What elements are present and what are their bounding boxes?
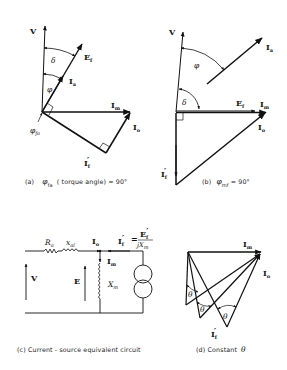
inductor-Xm xyxy=(99,263,101,299)
label-phi-fa: φfa xyxy=(30,126,40,137)
phasor-V xyxy=(42,26,45,112)
label-Im: Im xyxy=(107,256,117,267)
label-V: V xyxy=(168,27,176,37)
angle-phi-arc xyxy=(181,48,224,70)
label-Io: Io xyxy=(258,122,266,133)
caption-d: (d) Constantθ xyxy=(196,345,246,354)
eq-numerator: Ef′ xyxy=(140,225,149,240)
phi-fa-pointer xyxy=(38,113,42,122)
label-Ef: Ef xyxy=(236,98,245,109)
caption-a: (a)φfa( torque angle) = 90° xyxy=(25,177,127,188)
resistor-Ra xyxy=(44,249,58,253)
label-Ia: Ia xyxy=(69,76,77,87)
label-Ra: Ra xyxy=(44,238,54,248)
panel-b-phasor-diagram: V Ia φ δ Ef Im If′ Io (b)φmf= 90° xyxy=(161,27,274,188)
phasor-Io-2 xyxy=(200,254,260,318)
eq-lhs: If′ xyxy=(118,232,125,247)
phasor-diagram-figure: V Ef Ia δ φ Im Io If′ φfa (a)φfa( torque… xyxy=(0,0,287,370)
label-xal: xal xyxy=(66,238,75,248)
equation-If-prime: If′ = Ef′ jXm xyxy=(118,225,153,250)
label-delta: δ xyxy=(51,56,56,65)
label-theta-2: θ xyxy=(200,305,205,314)
label-Xm: Xm xyxy=(107,280,118,290)
label-Ia: Io xyxy=(92,236,100,247)
caption-b: (b)φmf= 90° xyxy=(202,177,250,188)
label-Ia: Ia xyxy=(266,42,274,53)
phasor-If-prime xyxy=(42,112,106,153)
angle-delta-arc xyxy=(44,48,75,56)
label-theta-1: θ xyxy=(188,290,193,299)
label-Ef: Ef xyxy=(84,52,93,63)
label-Io: Io xyxy=(263,268,271,279)
phasor-If-2 xyxy=(188,252,200,318)
eq-denominator: jXm xyxy=(135,241,149,250)
label-phi: φ xyxy=(194,61,200,70)
right-angle-marker xyxy=(47,103,53,115)
theta-arc-3 xyxy=(218,305,236,309)
label-Io: Io xyxy=(133,122,141,133)
panel-d-constant-theta: Im Io If′ θ θ θ (d) Constantθ xyxy=(186,239,271,354)
label-delta: δ xyxy=(182,98,187,107)
right-angle-marker xyxy=(176,113,183,120)
label-theta-3: θ xyxy=(223,312,228,321)
label-V: V xyxy=(30,273,38,283)
label-phi: φ xyxy=(47,85,53,94)
label-V: V xyxy=(29,26,37,36)
label-E: E xyxy=(74,276,80,286)
label-If-prime: If′ xyxy=(211,325,218,340)
label-If-prime: If′ xyxy=(161,165,168,180)
angle-phi-arc xyxy=(43,74,62,79)
caption-c: (c) Current - source equivalent circuit xyxy=(17,346,141,354)
phasor-Io xyxy=(176,113,265,185)
panel-c-equivalent-circuit: V E Ra xal Io Im Xm If′ = Ef′ jXm (c) Cu… xyxy=(17,225,153,354)
label-Im: Im xyxy=(243,239,253,250)
panel-a-phasor-diagram: V Ef Ia δ φ Im Io If′ φfa (a)φfa( torque… xyxy=(25,26,141,188)
node xyxy=(99,250,101,252)
label-Im: Im xyxy=(111,100,121,111)
label-Im: Im xyxy=(260,99,270,110)
inductor-xal xyxy=(62,249,78,251)
label-If-prime: If′ xyxy=(84,154,91,169)
